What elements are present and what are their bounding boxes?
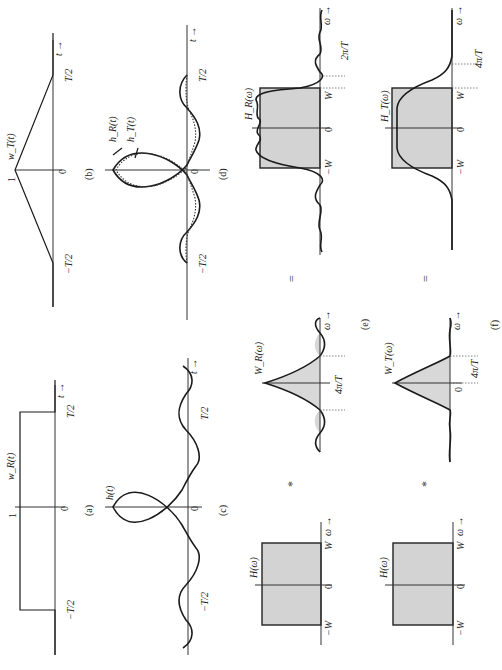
t-axis-label: t → xyxy=(188,359,199,374)
neg-tick-label: −T/2 xyxy=(65,600,76,620)
width-label: 4π/T xyxy=(469,358,480,378)
neg-tick-label: −W xyxy=(323,619,334,636)
neg-tick-label: −T/2 xyxy=(199,592,210,612)
t-axis-label: t → xyxy=(187,27,198,42)
panel-f-result: H_T(ω) 0 W −W 4π/T ω → xyxy=(379,5,484,250)
convolution-operator: * xyxy=(419,481,433,487)
panel-e-result: H_R(ω) 0 W −W 2π/T ω → xyxy=(243,5,350,255)
panel-label: (a) xyxy=(83,505,95,516)
func-label: W_T(ω) xyxy=(383,342,395,375)
func-label: H_T(ω) xyxy=(379,90,391,123)
amp-label: 1 xyxy=(7,513,18,518)
h-R-label: h_R(t) xyxy=(107,116,119,142)
ideal-filter-box xyxy=(262,543,321,625)
pos-tick-label: T/2 xyxy=(199,407,210,420)
width-label: 4π/T xyxy=(333,374,344,394)
func-label: H_R(ω) xyxy=(243,87,255,121)
panel-label: (d) xyxy=(217,168,229,180)
panel-c: h(t) 0 T/2 −T/2 t → (c) xyxy=(104,358,229,655)
origin-label: 0 xyxy=(323,584,334,589)
panel-f-window: W_T(ω) 0 4π/T ω → (f) xyxy=(383,310,501,462)
neg-tick-label: −W xyxy=(455,158,466,175)
origin-label: 0 xyxy=(57,169,68,174)
origin-label: 0 xyxy=(189,506,200,511)
t-axis-label: t → xyxy=(53,41,64,56)
figure-canvas: 1 w_T(t) 0 T/2 −T/2 t → (b) h_R(t) h_T(t… xyxy=(0,0,502,670)
panel-a: 1 w_R(t) 0 T/2 −T/2 t → (a) xyxy=(5,380,95,655)
pos-tick-label: W xyxy=(323,540,334,550)
panel-label: (b) xyxy=(83,168,95,180)
origin-label: 0 xyxy=(453,387,464,392)
omega-axis-label: ω → xyxy=(322,516,333,536)
omega-axis-label: ω → xyxy=(321,5,332,25)
t-axis-label: t → xyxy=(55,383,66,398)
pos-tick-label: T/2 xyxy=(65,405,76,418)
omega-axis-label: ω → xyxy=(454,516,465,536)
pos-tick-label: W xyxy=(455,90,466,100)
func-label: H(ω) xyxy=(248,556,260,579)
origin-label: 0 xyxy=(455,127,466,132)
neg-tick-label: −T/2 xyxy=(197,254,208,274)
width-label: 2π/T xyxy=(339,40,350,60)
func-label: H(ω) xyxy=(378,556,390,579)
omega-axis-label: ω → xyxy=(321,310,332,330)
origin-label: 0 xyxy=(455,584,466,589)
omega-axis-label: ω → xyxy=(453,5,464,25)
equals-sign: = xyxy=(419,275,433,282)
panel-d: h_R(t) h_T(t) 0 T/2 −T/2 t → (d) xyxy=(105,25,229,320)
panel-label: (e) xyxy=(359,319,371,330)
pos-tick-label: W xyxy=(455,540,466,550)
equals-sign: = xyxy=(285,275,299,282)
rectangular-window-curve xyxy=(20,380,55,655)
h-R-leader xyxy=(113,148,122,155)
func-label: W_R(ω) xyxy=(253,341,265,375)
h-T-label: h_T(t) xyxy=(125,116,137,142)
origin-label: 0 xyxy=(59,506,70,511)
neg-tick-label: −T/2 xyxy=(63,254,74,274)
convolution-operator: * xyxy=(285,481,299,487)
panel-e-ideal: H(ω) 0 W −W ω → xyxy=(248,516,334,645)
amp-label: 1 xyxy=(6,177,17,182)
panel-e-window: W_R(ω) 4π/T ω → (e) xyxy=(253,310,371,452)
origin-label: 0 xyxy=(189,169,200,174)
panel-label: (c) xyxy=(217,505,229,516)
func-label: w_R(t) xyxy=(5,452,17,480)
neg-tick-label: −W xyxy=(323,158,334,175)
func-label: w_T(t) xyxy=(5,133,17,160)
width-label: 4π/T xyxy=(473,48,484,68)
panel-f-ideal: H(ω) 0 W −W ω → xyxy=(378,516,466,645)
panel-label: (f) xyxy=(489,320,501,330)
pos-tick-label: T/2 xyxy=(197,69,208,82)
func-label: h(t) xyxy=(104,485,116,500)
ideal-filter-box xyxy=(393,543,453,625)
panel-b: 1 w_T(t) 0 T/2 −T/2 t → (b) xyxy=(5,33,95,307)
omega-axis-label: ω → xyxy=(451,310,462,330)
pos-tick-label: T/2 xyxy=(63,69,74,82)
pos-tick-label: W xyxy=(323,90,334,100)
neg-tick-label: −W xyxy=(455,619,466,636)
origin-label: 0 xyxy=(323,127,334,132)
